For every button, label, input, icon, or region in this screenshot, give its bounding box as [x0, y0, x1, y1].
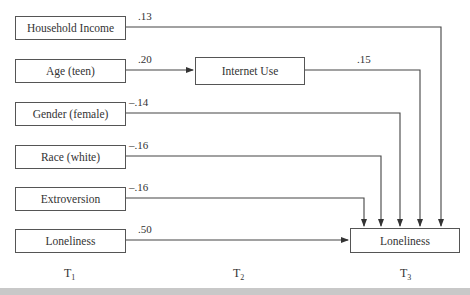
node-extroversion: Extroversion — [15, 187, 126, 211]
time-label-sub: 1 — [71, 273, 75, 282]
coef-household-income: .13 — [138, 10, 152, 22]
node-label: Internet Use — [222, 65, 279, 77]
coef-age: .20 — [138, 53, 152, 65]
edge-gender — [126, 113, 400, 226]
time-label-t3: T3 — [400, 266, 411, 282]
node-loneliness-t1: Loneliness — [15, 229, 126, 253]
coef-internet-use: .15 — [357, 53, 371, 65]
node-label: Race (white) — [41, 151, 100, 163]
time-label-sub: 3 — [407, 273, 411, 282]
coef-race: –.16 — [129, 139, 148, 151]
node-label: Extroversion — [41, 193, 100, 205]
node-internet-use: Internet Use — [195, 57, 305, 85]
time-label-sub: 2 — [240, 273, 244, 282]
bottom-divider — [0, 288, 470, 295]
node-household-income: Household Income — [15, 16, 126, 40]
coef-gender: –.14 — [129, 96, 148, 108]
node-label: Household Income — [27, 22, 114, 34]
time-label-t2: T2 — [233, 266, 244, 282]
edge-extroversion — [126, 198, 364, 226]
coef-extroversion: –.16 — [129, 181, 148, 193]
node-gender-female: Gender (female) — [15, 102, 126, 126]
node-loneliness-t3: Loneliness — [350, 228, 460, 253]
time-label-t1: T1 — [64, 266, 75, 282]
node-label: Gender (female) — [33, 108, 109, 120]
node-age-teen: Age (teen) — [15, 59, 126, 83]
coef-loneliness: .50 — [138, 223, 152, 235]
node-label: Loneliness — [380, 235, 430, 247]
edge-internet-loneliness — [305, 70, 420, 226]
node-label: Loneliness — [46, 235, 96, 247]
edge-race — [126, 156, 381, 226]
node-race-white: Race (white) — [15, 145, 126, 169]
node-label: Age (teen) — [46, 65, 95, 77]
